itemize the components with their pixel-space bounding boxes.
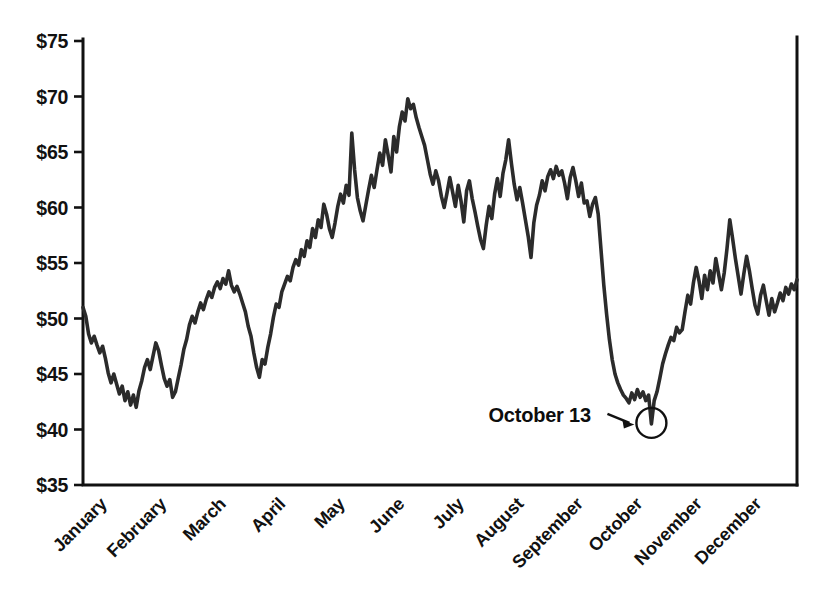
x-tick-label-march: March bbox=[179, 494, 230, 545]
stock-price-chart: $35$40$45$50$55$60$65$70$75 JanuaryFebru… bbox=[0, 0, 826, 612]
axis-left-bottom bbox=[83, 39, 797, 485]
x-tick-label-february: February bbox=[103, 494, 171, 562]
x-tick-label-april: April bbox=[247, 494, 289, 536]
x-tick-label-october: October bbox=[584, 494, 646, 556]
series-group bbox=[83, 99, 797, 424]
chart-axes bbox=[83, 37, 797, 485]
x-tick-label-august: August bbox=[470, 494, 527, 551]
annotation-label: October 13 bbox=[488, 404, 591, 426]
y-tick-label: $35 bbox=[36, 474, 68, 496]
x-tick-label-january: January bbox=[49, 494, 111, 556]
y-tick-label: $65 bbox=[36, 141, 68, 163]
y-tick-label: $45 bbox=[36, 363, 68, 385]
y-tick-label: $40 bbox=[36, 419, 68, 441]
y-tick-label: $60 bbox=[36, 197, 68, 219]
x-tick-label-july: July bbox=[429, 494, 468, 533]
y-tick-label: $55 bbox=[36, 252, 68, 274]
chart-canvas: $35$40$45$50$55$60$65$70$75 JanuaryFebru… bbox=[0, 0, 826, 612]
x-tick-labels: JanuaryFebruaryMarchAprilMayJuneJulyAugu… bbox=[49, 494, 766, 573]
x-tick-label-may: May bbox=[310, 494, 349, 533]
y-tick-label: $75 bbox=[36, 30, 68, 52]
y-tick-label: $50 bbox=[36, 308, 68, 330]
annotation-october-13: October 13 bbox=[488, 404, 666, 438]
y-tick-labels: $35$40$45$50$55$60$65$70$75 bbox=[36, 30, 68, 496]
price-line-series bbox=[83, 99, 797, 424]
y-tick-label: $70 bbox=[36, 86, 68, 108]
x-tick-label-june: June bbox=[365, 494, 408, 537]
